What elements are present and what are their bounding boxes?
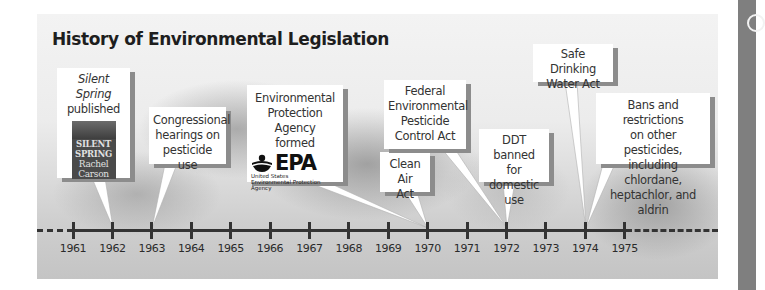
year-label: 1964 [171, 242, 211, 255]
callout-congressional-hearings: Congressional hearings on pesticide use [149, 107, 226, 164]
year-label: 1969 [368, 242, 408, 255]
pointer-safe-drinking [565, 82, 586, 228]
silent-spring-book-cover: SILENT SPRING Rachel Carson [72, 121, 116, 179]
timeline-tick [150, 222, 153, 239]
year-label: 1973 [526, 242, 566, 255]
callout-bans-restrictions: Bans and restrictions on other pesticide… [596, 93, 710, 164]
pointer-congressional [152, 164, 177, 228]
year-label: 1965 [211, 242, 251, 255]
callout-safe-drinking-water: Safe Drinking Water Act [533, 44, 613, 82]
year-label: 1970 [408, 242, 448, 255]
sidebar-circle-icon[interactable] [747, 14, 765, 32]
timeline-tick [505, 222, 508, 239]
timeline-tick [229, 222, 232, 239]
timeline-tick [466, 222, 469, 239]
right-sidebar [738, 0, 756, 290]
callout-text: published [61, 102, 126, 117]
callout-clean-air-act: Clean Air Act [380, 152, 430, 192]
year-label: 1967 [289, 242, 329, 255]
timeline-tick [347, 222, 350, 239]
epa-logo: EPA United States Environmental Protecti… [251, 153, 343, 191]
timeline-tick [190, 222, 193, 239]
timeline-figure: History of Environmental Legislation 196… [37, 14, 718, 279]
year-label: 1974 [565, 242, 605, 255]
timeline-tick [308, 222, 311, 239]
timeline-tick [584, 222, 587, 239]
year-label: 1972 [486, 242, 526, 255]
callout-fepca: Federal Environmental Pesticide Control … [384, 80, 466, 149]
year-label: 1975 [605, 242, 645, 255]
year-label: 1963 [132, 242, 172, 255]
callout-ddt-banned: DDT banned for domestic use [479, 129, 549, 182]
timeline-tick [111, 222, 114, 239]
timeline-tick [544, 222, 547, 239]
year-label: 1962 [92, 242, 132, 255]
timeline-tick [269, 222, 272, 239]
timeline-dashed-start [37, 229, 73, 232]
timeline-tick [387, 222, 390, 239]
book-title: Silent Spring [61, 72, 126, 102]
pointer-silent-spring [92, 178, 113, 228]
timeline-tick [623, 222, 626, 239]
year-label: 1966 [250, 242, 290, 255]
callout-silent-spring: Silent Spring published SILENT SPRING Ra… [57, 68, 130, 178]
epa-wordmark: EPA [275, 153, 316, 173]
callout-epa-formed: Environmental Protection Agency formed E… [247, 85, 343, 182]
timeline-tick [72, 222, 75, 239]
timeline-tick [426, 222, 429, 239]
year-label: 1971 [447, 242, 487, 255]
timeline-dashed-end [626, 229, 718, 232]
epa-flower-icon [251, 154, 273, 172]
year-label: 1968 [329, 242, 369, 255]
year-label: 1961 [53, 242, 93, 255]
